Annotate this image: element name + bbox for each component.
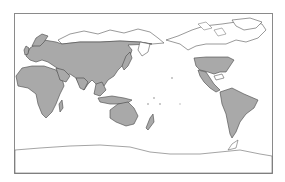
india: [76, 78, 88, 90]
africa: [16, 66, 64, 118]
antarctic-peninsula: [228, 140, 238, 150]
cuba: [214, 74, 224, 80]
pacific-island: [147, 103, 149, 105]
pacific-island: [159, 103, 161, 105]
south-america: [220, 88, 258, 138]
pacific-island: [171, 77, 173, 79]
pacific-island: [179, 103, 181, 105]
new-zealand: [146, 114, 154, 130]
kamchatka: [138, 42, 150, 56]
great-britain: [24, 46, 29, 55]
antarctica: [15, 145, 272, 173]
world-map: [0, 0, 285, 182]
pacific-island: [153, 97, 155, 99]
madagascar: [59, 100, 63, 112]
australia: [110, 102, 138, 126]
